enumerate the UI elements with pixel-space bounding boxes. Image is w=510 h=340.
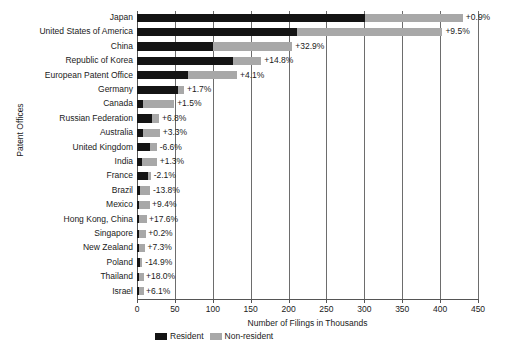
category-label: Canada (103, 97, 133, 111)
stacked-bar (137, 186, 150, 194)
bar-row: Japan+0.9% (137, 11, 478, 25)
growth-label: +17.6% (149, 213, 178, 227)
x-tick-label: 300 (357, 304, 371, 314)
bar-row: Canada+1.5% (137, 97, 478, 111)
category-label: Republic of Korea (65, 54, 133, 68)
category-label: Singapore (94, 227, 133, 241)
bar-row: Australia+3.3% (137, 126, 478, 140)
category-label: Mexico (106, 198, 133, 212)
bar-segment-nonresident (139, 244, 146, 252)
category-label: Japan (110, 11, 133, 25)
growth-label: +6.1% (146, 285, 170, 299)
bar-row: United States of America+9.5% (137, 25, 478, 39)
x-tick-label: 450 (471, 304, 485, 314)
category-label: India (115, 155, 133, 169)
bar-segment-nonresident (139, 201, 150, 209)
category-label: European Patent Office (45, 69, 133, 83)
x-tick-label: 200 (281, 304, 295, 314)
bar-segment-nonresident (140, 186, 150, 194)
growth-label: +6.8% (162, 112, 186, 126)
bar-row: Hong Kong, China+17.6% (137, 213, 478, 227)
bar-segment-nonresident (139, 273, 144, 281)
bar-row: European Patent Office+4.1% (137, 69, 478, 83)
chart-figure: Patent Offices 0501001502002503003504004… (0, 0, 510, 340)
category-label: Australia (100, 126, 133, 140)
growth-label: -13.8% (153, 184, 180, 198)
category-label: Germany (98, 83, 133, 97)
x-tick (251, 299, 252, 303)
x-tick-label: 100 (206, 304, 220, 314)
stacked-bar (137, 57, 261, 65)
stacked-bar (137, 158, 157, 166)
growth-label: +4.1% (240, 69, 264, 83)
category-label: Hong Kong, China (64, 213, 133, 227)
stacked-bar (137, 143, 157, 151)
category-label: United Kingdom (73, 141, 133, 155)
stacked-bar (137, 172, 151, 180)
bar-row: Thailand+18.0% (137, 270, 478, 284)
bar-row: Poland-14.9% (137, 256, 478, 270)
category-label: Russian Federation (59, 112, 133, 126)
category-label: China (111, 40, 133, 54)
bar-row: China+32.9% (137, 40, 478, 54)
bar-segment-nonresident (178, 86, 184, 94)
x-tick (326, 299, 327, 303)
stacked-bar (137, 14, 463, 22)
x-tick (402, 299, 403, 303)
x-tick (175, 299, 176, 303)
growth-label: +1.3% (160, 155, 184, 169)
bar-row: New Zealand+7.3% (137, 241, 478, 255)
chart-legend: ResidentNon-resident (155, 331, 273, 340)
bar-segment-nonresident (143, 129, 160, 137)
bar-segment-resident (137, 86, 178, 94)
stacked-bar (137, 71, 237, 79)
bar-segment-resident (137, 14, 365, 22)
bar-segment-nonresident (139, 230, 147, 238)
bar-segment-nonresident (148, 172, 150, 180)
bar-segment-nonresident (213, 42, 293, 50)
bar-segment-resident (137, 28, 297, 36)
growth-label: +18.0% (146, 270, 175, 284)
bar-segment-nonresident (140, 258, 142, 266)
legend-item: Non-resident (210, 331, 274, 340)
x-tick-label: 400 (433, 304, 447, 314)
bar-row: United Kingdom-6.6% (137, 141, 478, 155)
stacked-bar (137, 244, 145, 252)
x-axis-line (137, 299, 478, 300)
stacked-bar (137, 215, 146, 223)
growth-label: +7.3% (148, 241, 172, 255)
bar-segment-nonresident (297, 28, 442, 36)
legend-label: Non-resident (225, 331, 274, 340)
bar-row: Mexico+9.4% (137, 198, 478, 212)
bar-segment-resident (137, 57, 233, 65)
growth-label: +1.5% (177, 97, 201, 111)
gridline (478, 11, 479, 299)
category-label: Israel (112, 285, 133, 299)
bar-row: Germany+1.7% (137, 83, 478, 97)
stacked-bar (137, 42, 292, 50)
growth-label: +0.9% (466, 11, 490, 25)
bar-row: Singapore+0.2% (137, 227, 478, 241)
growth-label: +9.5% (445, 25, 469, 39)
bar-segment-resident (137, 114, 152, 122)
stacked-bar (137, 287, 143, 295)
category-label: Poland (107, 256, 133, 270)
x-tick (213, 299, 214, 303)
x-tick (364, 299, 365, 303)
category-label: Brazil (112, 184, 133, 198)
bar-row: India+1.3% (137, 155, 478, 169)
bar-segment-resident (137, 71, 188, 79)
stacked-bar (137, 201, 149, 209)
growth-label: +32.9% (295, 40, 324, 54)
plot-area: 050100150200250300350400450 Japan+0.9%Un… (137, 11, 478, 299)
bar-segment-nonresident (139, 287, 144, 295)
legend-item: Resident (155, 331, 204, 340)
x-tick (289, 299, 290, 303)
bar-segment-nonresident (188, 71, 237, 79)
legend-swatch (155, 333, 167, 340)
stacked-bar (137, 114, 159, 122)
bar-segment-resident (137, 143, 150, 151)
bar-segment-nonresident (365, 14, 463, 22)
category-label: France (107, 169, 133, 183)
bar-segment-nonresident (143, 100, 174, 108)
